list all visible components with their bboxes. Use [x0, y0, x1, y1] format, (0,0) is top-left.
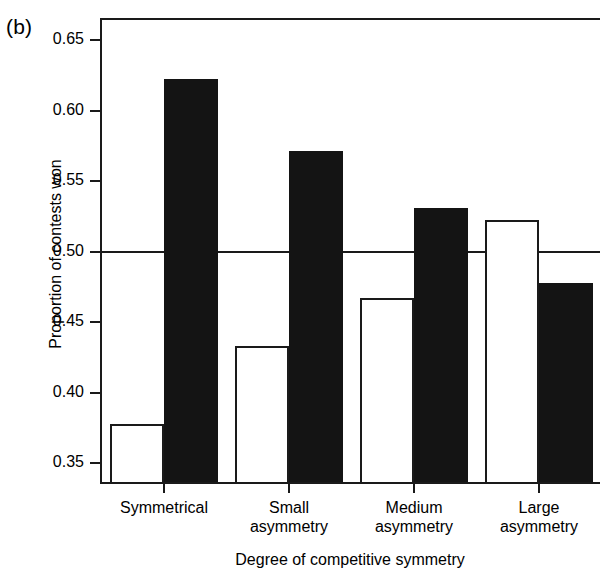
bar-filled-0	[164, 79, 218, 482]
x-tick-mark	[163, 483, 165, 493]
y-tick-label: 0.55	[10, 172, 84, 188]
bar-filled-1	[289, 151, 343, 482]
y-tick-mark	[90, 180, 101, 182]
y-tick-mark	[90, 321, 101, 323]
bar-open-3	[485, 220, 539, 482]
y-tick-label: 0.40	[10, 384, 84, 400]
x-axis-title: Degree of competitive symmetry	[100, 551, 600, 569]
x-axis-line	[100, 482, 600, 484]
y-tick-mark	[90, 110, 101, 112]
bar-open-1	[235, 346, 289, 482]
x-tick-label: Large asymmetry	[464, 498, 601, 536]
x-tick-mark	[288, 483, 290, 493]
y-tick-label: 0.45	[10, 313, 84, 329]
y-tick-label: 0.50	[10, 243, 84, 259]
y-tick-label: 0.60	[10, 102, 84, 118]
y-tick-mark	[90, 39, 101, 41]
y-tick-label: 0.35	[10, 454, 84, 470]
x-tick-mark	[538, 483, 540, 493]
figure-panel-b: (b) Proportion of contests won 0.350.400…	[0, 0, 601, 580]
bar-filled-2	[414, 208, 468, 482]
y-tick-label: 0.65	[10, 31, 84, 47]
y-tick-mark	[90, 392, 101, 394]
bar-open-2	[360, 298, 414, 482]
x-tick-mark	[413, 483, 415, 493]
bar-open-0	[110, 424, 164, 482]
y-tick-mark	[90, 462, 101, 464]
bar-filled-3	[539, 283, 593, 482]
